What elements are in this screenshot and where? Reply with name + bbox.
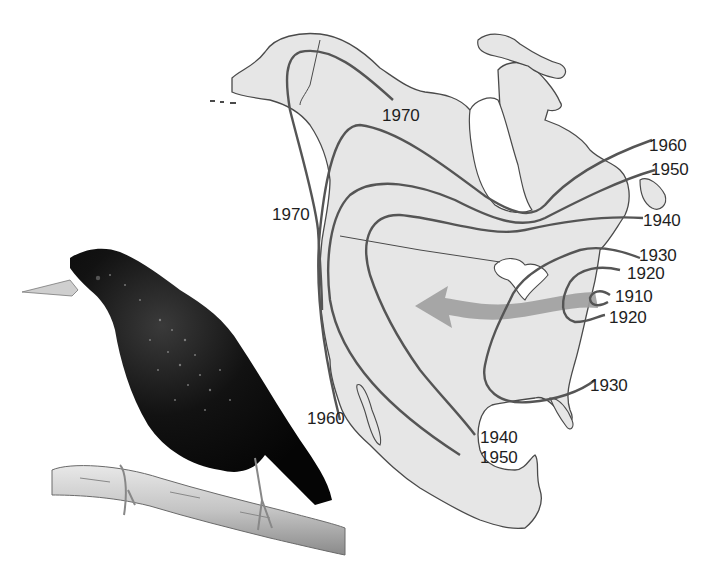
- label-1940-south: 1940: [480, 429, 518, 446]
- aleutian-islands: [210, 100, 236, 104]
- label-1920-east-lower: 1920: [609, 309, 647, 326]
- label-1950-south: 1950: [480, 449, 518, 466]
- label-1910-east: 1910: [615, 288, 653, 305]
- label-1930-east: 1930: [639, 247, 677, 264]
- label-1970-west: 1970: [272, 206, 310, 223]
- label-1970-north: 1970: [382, 107, 420, 124]
- label-1930-south: 1930: [590, 377, 628, 394]
- florida: [550, 398, 573, 429]
- label-1950-east: 1950: [651, 161, 689, 178]
- label-1920-east-upper: 1920: [627, 265, 665, 282]
- label-1940-east: 1940: [643, 212, 681, 229]
- starling-range-diagram: 1970 1970 1960 1950 1940 1930 1920 1910 …: [0, 0, 711, 570]
- north-america-map: [0, 0, 711, 570]
- newfoundland: [640, 179, 666, 209]
- label-1960-west: 1960: [307, 410, 345, 427]
- label-1960-east: 1960: [649, 137, 687, 154]
